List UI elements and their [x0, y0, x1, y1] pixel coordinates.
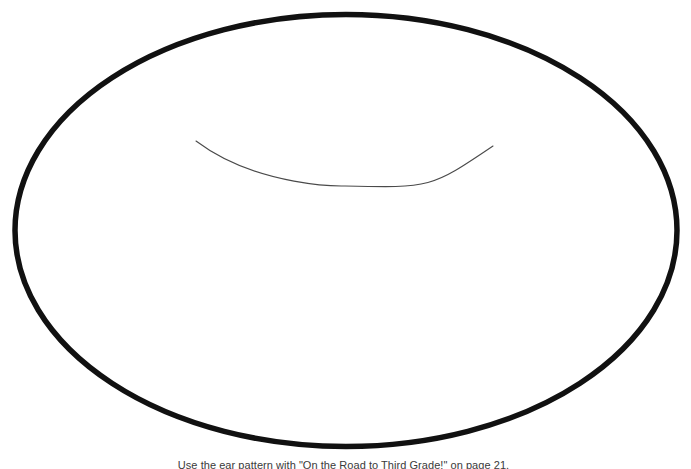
ear-outline-shape — [15, 15, 677, 447]
worksheet-page: Ear Pattern Use the ear pattern with "On… — [0, 0, 691, 469]
ear-inner-fold-arc — [196, 141, 493, 187]
caption-text: Use the ear pattern with "On the Road to… — [0, 459, 691, 469]
ear-pattern-drawing — [0, 0, 691, 469]
